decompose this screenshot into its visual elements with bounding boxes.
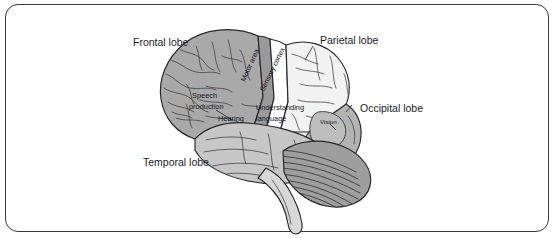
label-hearing: Hearing	[218, 114, 244, 123]
label-understanding-line2: language	[256, 114, 286, 123]
brain-diagram: Frontal lobe Parietal lobe Occipital lob…	[0, 0, 556, 238]
label-vision: Vision	[320, 118, 337, 125]
label-occipital-lobe: Occipital lobe	[360, 102, 423, 114]
label-understanding-line1: Understanding	[256, 103, 304, 112]
label-speech-production-line2: production	[189, 102, 224, 111]
label-frontal-lobe: Frontal lobe	[133, 36, 189, 48]
brain-svg: Frontal lobe Parietal lobe Occipital lob…	[0, 0, 556, 238]
label-parietal-lobe: Parietal lobe	[320, 34, 379, 46]
label-speech-production-line1: Speech	[192, 91, 217, 100]
label-temporal-lobe: Temporal lobe	[143, 156, 209, 168]
